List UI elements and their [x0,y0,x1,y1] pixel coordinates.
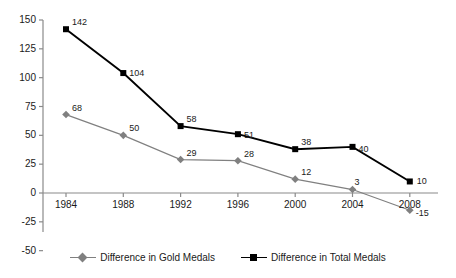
diamond-marker-icon [78,253,88,263]
y-axis-tick-label: 125 [10,43,36,54]
data-point-label: 40 [359,144,369,154]
data-point-label: 58 [187,114,197,124]
diamond-marker-icon [291,175,299,183]
square-marker-icon [63,26,69,32]
data-point-label: 68 [72,103,82,113]
legend-key-total [241,252,267,262]
y-axis-tick-label: -25 [10,216,36,227]
square-marker-icon [120,70,126,76]
diamond-marker-icon [177,156,185,164]
y-axis-tick-label: 75 [10,101,36,112]
square-marker-icon [250,254,257,261]
legend-item-gold[interactable]: Difference in Gold Medals [70,252,215,263]
diamond-marker-icon [62,111,70,119]
diamond-marker-icon [234,157,242,165]
square-marker-icon [235,131,241,137]
data-point-label: 104 [129,68,144,78]
x-axis-tick-label: 1992 [158,199,204,210]
y-axis-tick-label: 100 [10,72,36,83]
square-marker-icon [350,144,356,150]
data-point-label: 28 [244,149,254,159]
x-axis-tick-label: 1984 [43,199,89,210]
y-axis-tick-label: 150 [10,14,36,25]
plot-area [0,0,456,278]
x-axis-tick-label: 1988 [100,199,146,210]
data-point-label: -15 [416,208,429,218]
legend-item-total[interactable]: Difference in Total Medals [241,252,386,263]
y-axis-tick-label: 50 [10,129,36,140]
data-point-label: 3 [355,177,360,187]
legend-label-total: Difference in Total Medals [271,252,386,263]
diamond-marker-icon [120,132,128,140]
y-axis-tick-label: 25 [10,158,36,169]
square-marker-icon [292,146,298,152]
data-point-label: 51 [244,130,254,140]
x-axis-tick-label: 2004 [330,199,376,210]
data-point-label: 10 [417,176,427,186]
square-marker-icon [178,123,184,129]
data-point-label: 50 [129,123,139,133]
x-axis-tick-label: 1996 [215,199,261,210]
diamond-marker-icon [349,186,357,194]
line-chart: 1501251007550250-25-50 19841988199219962… [0,0,456,278]
legend-label-gold: Difference in Gold Medals [100,252,215,263]
data-point-label: 29 [187,148,197,158]
data-point-label: 12 [301,167,311,177]
data-point-label: 142 [72,17,87,27]
chart-legend: Difference in Gold Medals Difference in … [0,246,456,268]
legend-key-gold [70,252,96,262]
data-point-label: 38 [301,137,311,147]
square-marker-icon [407,178,413,184]
y-axis-tick-label: 0 [10,187,36,198]
x-axis-tick-label: 2000 [272,199,318,210]
